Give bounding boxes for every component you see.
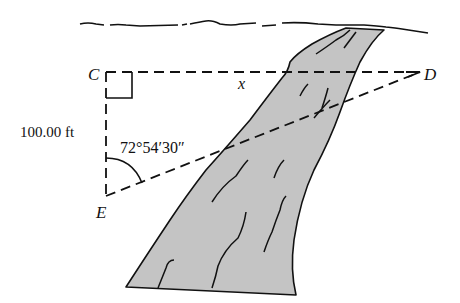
label-point-c: C (88, 65, 100, 84)
label-point-e: E (95, 203, 107, 222)
river-shape (126, 28, 384, 295)
label-angle-e: 72°54′30″ (120, 139, 185, 156)
label-side-ce: 100.00 ft (20, 124, 75, 140)
surveying-diagram: C D E 100.00 ft x 72°54′30″ (0, 0, 460, 303)
label-unknown-x: x (237, 75, 245, 92)
right-angle-marker (106, 72, 132, 98)
label-point-d: D (423, 65, 437, 84)
arrow-head-d (406, 72, 420, 77)
angle-arc (106, 158, 142, 183)
